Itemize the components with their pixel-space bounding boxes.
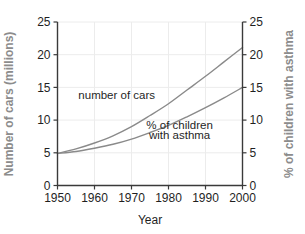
x-tick-label: 1960 (81, 191, 108, 205)
right-tick-label: 5 (250, 146, 257, 160)
x-tick-label: 1990 (192, 191, 219, 205)
x-axis-title: Year (138, 213, 162, 227)
x-tick-label: 1970 (118, 191, 145, 205)
left-tick-label: 25 (37, 15, 51, 29)
right-tick-label: 10 (250, 113, 264, 127)
annotation-cars: number of cars (78, 89, 155, 101)
chart-svg: 0510152025 0510152025 195019601970198019… (0, 0, 305, 234)
right-tick-label: 25 (250, 15, 264, 29)
right-tick-label: 15 (250, 81, 264, 95)
x-tick-label: 1950 (44, 191, 71, 205)
y2-axis-title: % of children with asthma (282, 30, 296, 178)
left-tick-label: 20 (37, 48, 51, 62)
chart-figure: 0510152025 0510152025 195019601970198019… (0, 0, 305, 234)
left-tick-label: 10 (37, 113, 51, 127)
annotation-asthma-line2: with asthma (148, 129, 211, 141)
left-tick-label: 15 (37, 81, 51, 95)
right-tick-label: 20 (250, 48, 264, 62)
x-tick-label: 1980 (155, 191, 182, 205)
y-axis-title: Number of cars (millions) (2, 32, 16, 177)
x-tick-label: 2000 (229, 191, 256, 205)
left-tick-label: 5 (44, 146, 51, 160)
